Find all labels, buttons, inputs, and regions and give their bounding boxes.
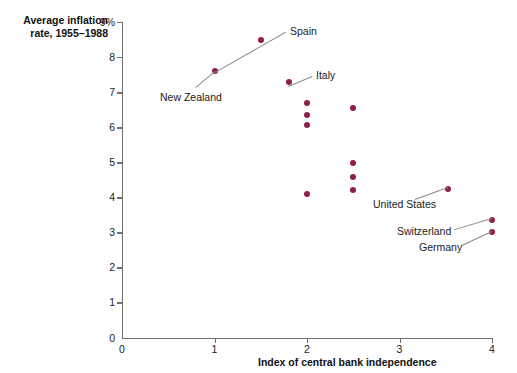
annotation-label-switzerland: Switzerland bbox=[397, 226, 451, 237]
y-tick-mark bbox=[117, 162, 122, 163]
y-tick-label: 4 bbox=[87, 192, 115, 202]
annotation-label-germany: Germany bbox=[419, 242, 462, 253]
y-tick-mark bbox=[117, 302, 122, 303]
y-tick-mark bbox=[117, 267, 122, 268]
scatter-chart: Average inflation rate, 1955–1988 Index … bbox=[0, 0, 517, 373]
annotation-leader-line bbox=[455, 218, 492, 230]
y-tick-mark bbox=[117, 232, 122, 233]
x-tick-label: 4 bbox=[480, 344, 504, 355]
y-tick-mark bbox=[117, 197, 122, 198]
y-tick-label: 9% bbox=[87, 17, 115, 27]
y-tick-label: 5 bbox=[87, 157, 115, 167]
data-point bbox=[304, 191, 310, 197]
x-tick-label: 2 bbox=[295, 344, 319, 355]
data-point bbox=[350, 187, 356, 193]
data-point bbox=[350, 160, 356, 166]
x-tick-label: 3 bbox=[388, 344, 412, 355]
annotation-label-united-states: United States bbox=[373, 199, 436, 210]
y-tick-mark bbox=[117, 92, 122, 93]
annotation-leader-line bbox=[215, 32, 285, 73]
y-tick-mark bbox=[117, 22, 122, 23]
x-tick-label: 1 bbox=[203, 344, 227, 355]
annotation-label-spain: Spain bbox=[290, 26, 317, 37]
data-point bbox=[304, 122, 310, 128]
y-tick-mark bbox=[117, 57, 122, 58]
data-point-spain bbox=[258, 37, 264, 43]
y-tick-label: 3 bbox=[87, 227, 115, 237]
y-axis-line bbox=[122, 22, 123, 338]
y-tick-label: 1 bbox=[87, 297, 115, 307]
data-point bbox=[304, 112, 310, 118]
data-point bbox=[304, 100, 310, 106]
data-point bbox=[350, 174, 356, 180]
annotation-leader-line bbox=[288, 76, 312, 87]
y-tick-label: 8 bbox=[87, 52, 115, 62]
y-tick-label: 6 bbox=[87, 122, 115, 132]
x-tick-label: 0 bbox=[110, 344, 134, 355]
y-tick-label: 7 bbox=[87, 87, 115, 97]
y-tick-label: 0 bbox=[87, 333, 115, 343]
x-axis-title: Index of central bank independence bbox=[258, 356, 437, 368]
y-tick-label: 2 bbox=[87, 262, 115, 272]
annotation-label-italy: Italy bbox=[316, 70, 335, 81]
annotation-label-new-zealand: New Zealand bbox=[160, 92, 222, 103]
annotation-leader-line bbox=[462, 231, 492, 246]
data-point bbox=[350, 105, 356, 111]
y-tick-mark bbox=[117, 127, 122, 128]
annotation-leader-line bbox=[195, 71, 215, 88]
